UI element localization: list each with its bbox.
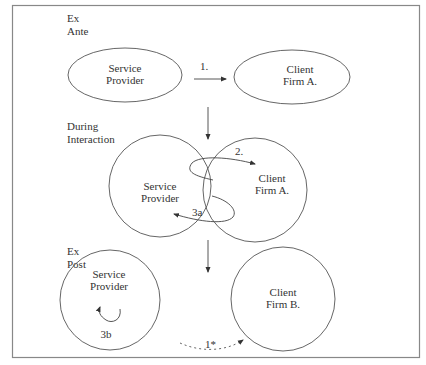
- svg-text:Ex: Ex: [67, 245, 80, 257]
- client-a-during-label-2: Firm A.: [255, 184, 289, 196]
- edge-label-1: 1.: [200, 60, 209, 72]
- client-b-label-1: Client: [270, 286, 297, 298]
- sp-ante-label-1: Service: [109, 62, 142, 74]
- arrow-2-loop-icon: [190, 158, 255, 180]
- client-a-during-label-1: Client: [259, 172, 286, 184]
- sp-during-label-2: Provider: [141, 192, 179, 204]
- svg-text:Ex: Ex: [67, 12, 80, 24]
- client-a-ante-label-2: Firm A.: [283, 75, 317, 87]
- sp-ante-label-2: Provider: [106, 74, 144, 86]
- phase-label-during-interaction: During Interaction: [67, 120, 115, 145]
- sp-during-label-1: Service: [144, 180, 177, 192]
- arrow-3b-self-loop-icon: [99, 307, 120, 322]
- phase-label-ex-ante: Ex Ante: [67, 12, 89, 37]
- svg-text:Interaction: Interaction: [67, 133, 115, 145]
- svg-text:Post: Post: [67, 258, 86, 270]
- sp-post-label-1: Service: [93, 268, 126, 280]
- svg-text:Ante: Ante: [67, 25, 89, 37]
- edge-label-3a: 3a: [192, 206, 203, 218]
- edge-label-3b: 3b: [101, 328, 113, 340]
- edge-label-2: 2.: [235, 145, 244, 157]
- client-b-label-2: Firm B.: [266, 298, 300, 310]
- edge-label-1-star: 1*: [205, 338, 216, 350]
- svg-text:During: During: [67, 120, 99, 132]
- diagram-canvas: Ex Ante During Interaction Ex Post Servi…: [0, 0, 426, 365]
- diagram-frame: [13, 6, 420, 358]
- client-a-ante-label-1: Client: [287, 63, 314, 75]
- sp-post-label-2: Provider: [90, 280, 128, 292]
